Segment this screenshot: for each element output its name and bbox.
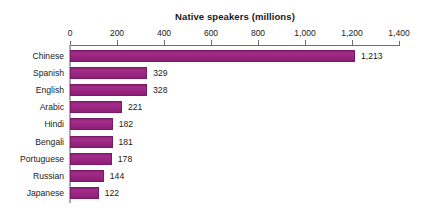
x-tick-mark (211, 40, 212, 45)
bar-chart: Native speakers (millions) 0200400600800… (0, 0, 421, 210)
bar-row: Portuguese178 (0, 151, 421, 168)
x-tick-label: 1,200 (341, 28, 362, 38)
bar[interactable] (70, 170, 104, 182)
category-label: Chinese (0, 51, 64, 61)
x-tick-label: 0 (68, 28, 73, 38)
category-label: Arabic (0, 102, 64, 112)
bar-row: Hindi182 (0, 117, 421, 134)
bar-value-label: 182 (119, 119, 133, 129)
category-label: Japanese (0, 188, 64, 198)
bar-value-label: 221 (128, 102, 142, 112)
bar[interactable] (70, 101, 122, 113)
x-tick-mark (352, 40, 353, 45)
bar-row: Spanish329 (0, 65, 421, 82)
bar-row: Japanese122 (0, 186, 421, 203)
x-tick-label: 1,400 (388, 28, 409, 38)
category-label: Russian (0, 171, 64, 181)
x-tick-mark (305, 40, 306, 45)
category-label: Bengali (0, 137, 64, 147)
bar-value-label: 1,213 (361, 51, 383, 61)
bar[interactable] (70, 187, 99, 199)
category-label: Hindi (0, 119, 64, 129)
bar[interactable] (70, 153, 112, 165)
bar-value-label: 178 (118, 154, 132, 164)
bar-row: Bengali181 (0, 134, 421, 151)
bar-row: Arabic221 (0, 100, 421, 117)
x-tick-mark (117, 40, 118, 45)
bar[interactable] (70, 50, 355, 62)
bar[interactable] (70, 67, 147, 79)
chart-title: Native speakers (millions) (70, 11, 400, 22)
bar-row: Chinese1,213 (0, 48, 421, 65)
bar-row: Russian144 (0, 168, 421, 185)
category-label: English (0, 85, 64, 95)
category-label: Spanish (0, 68, 64, 78)
plot-area: Chinese1,213Spanish329English328Arabic22… (0, 48, 421, 208)
x-axis-cap-left (70, 41, 71, 46)
category-label: Portuguese (0, 154, 64, 164)
bar-row: English328 (0, 82, 421, 99)
bar[interactable] (70, 136, 113, 148)
bar[interactable] (70, 118, 113, 130)
x-tick-mark (164, 40, 165, 45)
x-axis-cap-right (399, 41, 400, 46)
bar-value-label: 144 (110, 171, 124, 181)
bar-value-label: 328 (153, 85, 167, 95)
bar-value-label: 329 (153, 68, 167, 78)
x-tick-mark (258, 40, 259, 45)
x-tick-label: 1,000 (294, 28, 315, 38)
x-tick-label: 600 (204, 28, 218, 38)
x-tick-label: 800 (251, 28, 265, 38)
bar-value-label: 122 (105, 188, 119, 198)
x-axis-line (70, 45, 400, 46)
x-tick-label: 200 (110, 28, 124, 38)
x-tick-label: 400 (157, 28, 171, 38)
bar[interactable] (70, 84, 147, 96)
bar-value-label: 181 (119, 137, 133, 147)
